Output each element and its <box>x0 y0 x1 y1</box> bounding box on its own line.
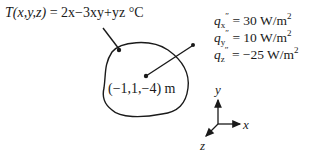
point-dot <box>144 74 148 78</box>
equation-unit: °C <box>125 5 143 20</box>
flux-point-dot <box>191 43 195 47</box>
z-axis-arrow <box>206 124 218 136</box>
equation-rhs: = 2x−3xy+yz <box>46 5 125 20</box>
heat-flux-z: qz″ = −25 W/m2 <box>214 45 299 64</box>
temperature-point-dot <box>117 48 121 52</box>
z-axis-label: z <box>200 138 205 154</box>
point-coordinates-label: (−1,1,−4) m <box>108 81 176 97</box>
temperature-leader-line <box>103 28 119 49</box>
control-volume-outline <box>103 43 188 117</box>
y-axis-label: y <box>215 82 221 98</box>
temperature-equation: T(x,y,z) = 2x−3xy+yz °C <box>5 5 144 21</box>
equation-lhs: T(x,y,z) <box>5 5 46 20</box>
x-axis-label: x <box>243 117 249 133</box>
